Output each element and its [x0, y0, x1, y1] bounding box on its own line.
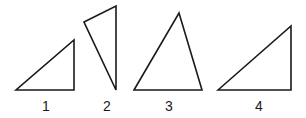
triangle-2-label: 2: [103, 99, 111, 113]
triangle-4: [218, 26, 291, 90]
triangle-2: [84, 6, 116, 90]
triangle-4-label: 4: [255, 99, 263, 113]
triangle-1: [16, 40, 74, 90]
triangle-3: [134, 13, 202, 90]
triangle-3-label: 3: [165, 99, 173, 113]
triangle-1-label: 1: [42, 99, 50, 113]
